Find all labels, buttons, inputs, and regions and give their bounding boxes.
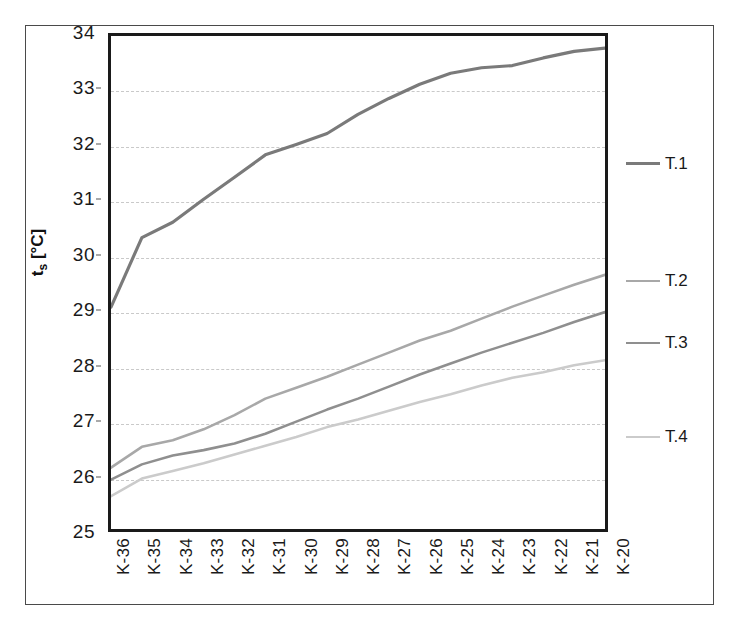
y-tick-label: 33 bbox=[73, 77, 95, 99]
legend-entry-t-3[interactable]: T.3 bbox=[626, 333, 688, 353]
y-tick-label: 27 bbox=[73, 410, 95, 432]
x-tick-label: K-35 bbox=[145, 538, 165, 575]
series-line-t-1 bbox=[111, 48, 605, 307]
legend-label: T.3 bbox=[665, 333, 688, 353]
x-tick-label: K-23 bbox=[520, 538, 540, 575]
x-tick-label: K-32 bbox=[239, 538, 259, 575]
y-tick-mark bbox=[96, 143, 101, 144]
legend-swatch-icon bbox=[626, 162, 660, 165]
legend-label: T.2 bbox=[665, 271, 688, 291]
x-tick-label: K-27 bbox=[395, 538, 415, 575]
x-tick-label: K-28 bbox=[364, 538, 384, 575]
x-tick-label: K-20 bbox=[614, 538, 634, 575]
series-lines bbox=[111, 36, 605, 529]
y-tick-mark bbox=[96, 421, 101, 422]
legend-entry-t-1[interactable]: T.1 bbox=[626, 154, 688, 174]
y-tick-mark bbox=[96, 254, 101, 255]
y-axis-title-symbol: t bbox=[28, 271, 47, 277]
legend-entry-t-4[interactable]: T.4 bbox=[626, 427, 688, 447]
y-tick-mark bbox=[96, 88, 101, 89]
y-tick-mark bbox=[96, 199, 101, 200]
legend-swatch-icon bbox=[626, 436, 660, 438]
x-tick-label: K-25 bbox=[458, 538, 478, 575]
x-tick-label: K-33 bbox=[208, 538, 228, 575]
y-tick-label: 34 bbox=[73, 22, 95, 44]
y-tick-mark bbox=[96, 476, 101, 477]
y-tick-mark bbox=[96, 365, 101, 366]
x-tick-label: K-31 bbox=[270, 538, 290, 575]
y-tick-label: 30 bbox=[73, 244, 95, 266]
x-tick-label: K-21 bbox=[583, 538, 603, 575]
y-tick-label: 32 bbox=[73, 133, 95, 155]
series-line-t-3 bbox=[111, 312, 605, 480]
y-tick-label: 28 bbox=[73, 355, 95, 377]
x-tick-label: K-26 bbox=[427, 538, 447, 575]
plot-area bbox=[108, 33, 608, 532]
y-tick-label: 29 bbox=[73, 299, 95, 321]
legend-label: T.1 bbox=[665, 154, 688, 174]
legend-swatch-icon bbox=[626, 342, 660, 344]
chart-figure: ts [°C] 25262728293031323334 K-36K-35K-3… bbox=[0, 0, 735, 625]
x-axis: K-36K-35K-34K-33K-32K-31K-30K-29K-28K-27… bbox=[108, 535, 608, 607]
series-line-t-4 bbox=[111, 360, 605, 496]
y-axis: 25262728293031323334 bbox=[55, 33, 101, 532]
y-tick-label: 26 bbox=[73, 466, 95, 488]
x-tick-label: K-30 bbox=[302, 538, 322, 575]
y-tick-mark bbox=[96, 310, 101, 311]
x-tick-label: K-24 bbox=[489, 538, 509, 575]
x-tick-label: K-29 bbox=[333, 538, 353, 575]
y-tick-label: 25 bbox=[73, 521, 95, 543]
legend-entry-t-2[interactable]: T.2 bbox=[626, 271, 688, 291]
y-axis-title-unit: [°C] bbox=[28, 229, 47, 264]
legend-swatch-icon bbox=[626, 280, 660, 282]
series-line-t-2 bbox=[111, 275, 605, 468]
legend-label: T.4 bbox=[665, 427, 688, 447]
y-axis-title-subscript: s bbox=[36, 264, 50, 271]
chart-legend: T.1T.2T.3T.4 bbox=[626, 33, 716, 532]
y-tick-label: 31 bbox=[73, 188, 95, 210]
x-tick-label: K-36 bbox=[114, 538, 134, 575]
x-tick-label: K-34 bbox=[177, 538, 197, 575]
x-tick-label: K-22 bbox=[552, 538, 572, 575]
y-axis-title: ts [°C] bbox=[28, 246, 50, 276]
